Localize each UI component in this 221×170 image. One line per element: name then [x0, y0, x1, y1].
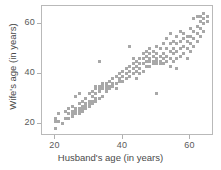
data-point	[135, 77, 138, 80]
data-point	[206, 20, 209, 23]
x-tick-mark	[122, 135, 123, 139]
data-point	[98, 60, 101, 63]
data-point	[142, 70, 145, 73]
data-point	[78, 92, 81, 95]
data-point	[199, 35, 202, 38]
data-point	[175, 67, 178, 70]
data-point	[155, 92, 158, 95]
y-tick-mark	[37, 73, 41, 74]
data-point	[54, 127, 57, 130]
data-points-layer	[42, 6, 212, 134]
data-point	[115, 87, 118, 90]
data-point	[175, 35, 178, 38]
data-point	[206, 15, 209, 18]
data-point	[202, 30, 205, 33]
data-point	[165, 37, 168, 40]
y-tick-mark	[37, 23, 41, 24]
plot-area-frame	[41, 5, 213, 135]
data-point	[159, 47, 162, 50]
data-point	[189, 50, 192, 53]
x-tick-label: 60	[177, 140, 201, 150]
x-axis-title: Husband's age (in years)	[0, 152, 221, 163]
data-point	[182, 52, 185, 55]
data-point	[169, 32, 172, 35]
data-point	[196, 40, 199, 43]
y-axis-title: Wife's age (in years)	[7, 7, 18, 127]
x-tick-label: 20	[42, 140, 66, 150]
x-tick-mark	[54, 135, 55, 139]
data-point	[101, 95, 104, 98]
y-tick-mark	[37, 123, 41, 124]
scatter-plot-figure: 204060 204060 Husband's age (in years) W…	[0, 0, 221, 170]
x-tick-label: 40	[110, 140, 134, 150]
data-point	[61, 122, 64, 125]
data-point	[192, 45, 195, 48]
x-tick-mark	[189, 135, 190, 139]
data-point	[186, 57, 189, 60]
data-point	[57, 112, 60, 115]
data-point	[162, 42, 165, 45]
data-point	[169, 65, 172, 68]
data-point	[128, 45, 131, 48]
